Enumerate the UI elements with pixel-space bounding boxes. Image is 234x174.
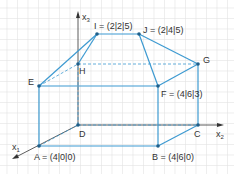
point-B <box>156 144 160 148</box>
label-G: G <box>203 55 210 65</box>
label-D: D <box>79 129 86 139</box>
x3-arrow-icon <box>76 11 80 18</box>
label-C: C <box>194 129 201 139</box>
point-J <box>137 32 141 36</box>
point-A <box>37 144 41 148</box>
label-x1: x1 <box>12 142 21 153</box>
point-I <box>95 32 99 36</box>
label-F: F = (4|6|3) <box>161 89 202 99</box>
label-E: E <box>28 77 34 87</box>
label-x2: x2 <box>216 129 225 140</box>
label-I: I = (2|2|5) <box>94 21 132 31</box>
point-F <box>156 84 160 88</box>
point-C <box>196 123 200 127</box>
label-H: H <box>79 66 86 76</box>
axes <box>12 11 224 159</box>
geometry-figure: A = (4|0|0) B = (4|6|0) C D E F = (4|6|3… <box>0 0 234 174</box>
label-x3: x3 <box>82 12 91 23</box>
label-A: A = (4|0|0) <box>34 152 75 162</box>
label-B: B = (4|6|0) <box>152 152 194 162</box>
point-E <box>37 84 41 88</box>
point-D <box>76 123 80 127</box>
point-G <box>196 62 200 66</box>
label-J: J = (2|4|5) <box>143 25 183 35</box>
